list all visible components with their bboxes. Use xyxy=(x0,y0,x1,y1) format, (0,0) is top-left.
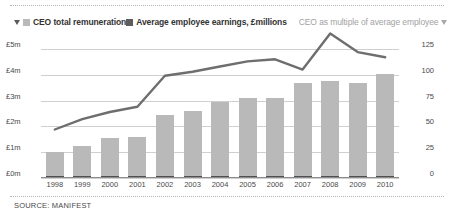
plot-area xyxy=(41,49,399,178)
line-series-container xyxy=(41,25,399,178)
left-axis-tick-£0m: £0m xyxy=(6,169,40,178)
x-axis-label-2003: 2003 xyxy=(179,180,207,189)
legend-swatch-ceo-icon xyxy=(23,19,30,26)
right-axis-tick-0: 0 xyxy=(404,169,434,178)
left-axis-tick-£1m: £1m xyxy=(6,143,40,152)
ceo-multiple-line-icon xyxy=(41,25,399,178)
left-axis-tick-£4m: £4m xyxy=(6,66,40,75)
bottom-divider xyxy=(10,196,444,198)
x-axis-label-2000: 2000 xyxy=(96,180,124,189)
axis-baseline xyxy=(41,177,399,178)
top-divider xyxy=(10,5,444,7)
source-note: SOURCE: MANIFEST xyxy=(14,201,91,210)
x-axis-label-1998: 1998 xyxy=(41,180,69,189)
x-axis-label-2005: 2005 xyxy=(234,180,262,189)
x-axis-label-2006: 2006 xyxy=(261,180,289,189)
right-axis-tick-25: 25 xyxy=(404,143,434,152)
x-axis-label-2004: 2004 xyxy=(206,180,234,189)
x-axis-label-2002: 2002 xyxy=(151,180,179,189)
right-axis-tick-100: 100 xyxy=(404,66,434,75)
x-axis-label-2007: 2007 xyxy=(289,180,317,189)
triangle-down-icon-right xyxy=(441,20,447,25)
gridline xyxy=(41,178,399,179)
ceo-multiple-polyline xyxy=(55,34,385,130)
left-axis-tick-£2m: £2m xyxy=(6,117,40,126)
triangle-down-icon-left xyxy=(14,20,20,25)
left-axis-tick-£3m: £3m xyxy=(6,92,40,101)
right-axis-tick-50: 50 xyxy=(404,117,434,126)
x-axis-label-2009: 2009 xyxy=(344,180,372,189)
x-axis-label-2001: 2001 xyxy=(123,180,151,189)
x-axis-label-1999: 1999 xyxy=(68,180,96,189)
right-axis-tick-75: 75 xyxy=(404,92,434,101)
left-axis-tick-£5m: £5m xyxy=(6,40,40,49)
x-axis-label-2008: 2008 xyxy=(316,180,344,189)
right-axis-tick-125: 125 xyxy=(404,40,434,49)
x-axis-label-2010: 2010 xyxy=(371,180,399,189)
chart-figure: CEO total remuneration Average employee … xyxy=(0,0,454,220)
x-axis-labels: 1998199920002001200220032004200520062007… xyxy=(41,180,399,192)
